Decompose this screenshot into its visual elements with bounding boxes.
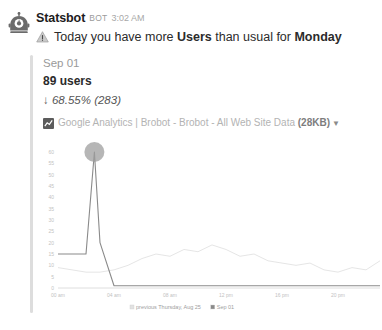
peak-marker[interactable] [84,142,104,162]
alert-message: Today you have more Users than usual for… [36,29,342,48]
y-tick-label: 35 [48,206,54,212]
attachment-source: Google Analytics | Brobot - Brobot - All… [43,116,376,133]
attachment-value: 89 users [43,73,376,90]
chart-series-line [58,152,380,286]
x-tick-label: 00 am [51,292,65,298]
alert-metric: Users [177,30,212,44]
y-tick-label: 40 [48,194,54,200]
x-tick-label: 08 am [163,292,177,298]
legend-swatch [130,305,134,309]
x-tick-label: 16 pm [275,292,289,298]
warning-triangle-icon [36,31,49,48]
chart-series-line [58,245,380,272]
y-tick-label: 5 [51,274,54,280]
alert-day: Monday [294,30,341,44]
x-tick-label: 12 pm [219,292,233,298]
y-tick-label: 50 [48,172,54,178]
y-tick-label: 45 [48,183,54,189]
y-tick-label: 10 [48,262,54,268]
attachment-date: Sep 01 [43,55,376,71]
y-tick-label: 0 [51,285,54,291]
attachment-size: (28KB) [298,117,330,128]
y-tick-label: 25 [48,228,54,234]
y-tick-label: 30 [48,217,54,223]
y-tick-label: 15 [48,251,54,257]
alert-text-middle: than usual for [212,30,295,44]
attachment-delta-text: 68.55% (283) [49,94,121,106]
y-tick-label: 55 [48,160,54,166]
chart-canvas: 05101520253035404550556000 am04 am08 am1… [30,138,382,323]
y-tick-label: 60 [48,149,54,155]
robot-avatar-icon [8,12,30,34]
attachment-body: Sep 01 89 users ↓ 68.55% (283) Google An… [43,55,376,133]
message-author[interactable]: Statsbot [36,11,85,25]
legend-label[interactable]: previous Thursday, Aug 25 [136,304,201,310]
chevron-down-icon[interactable]: ▼ [332,119,340,128]
google-analytics-icon [43,118,54,133]
x-tick-label: 04 am [107,292,121,298]
attachment-delta: ↓ 68.55% (283) [43,92,376,108]
analytics-chart: 05101520253035404550556000 am04 am08 am1… [30,138,382,323]
alert-text-prefix: Today you have more [54,30,177,44]
message-header: StatsbotBOT3:02 AM [36,10,145,25]
attachment-source-text[interactable]: Google Analytics | Brobot - Brobot - All… [58,117,298,128]
legend-label[interactable]: Sep 01 [217,304,234,310]
x-tick-label: 20 pm [331,292,345,298]
bot-badge: BOT [89,13,107,23]
legend-swatch [211,305,215,309]
y-tick-label: 20 [48,240,54,246]
message-timestamp[interactable]: 3:02 AM [112,13,145,23]
